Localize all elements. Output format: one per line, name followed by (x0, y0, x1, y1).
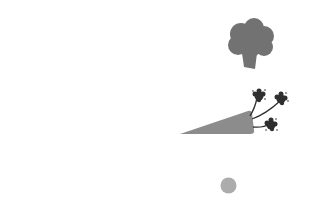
broccoli-icon[interactable] (226, 17, 276, 69)
carrot-icon[interactable] (178, 84, 294, 136)
dot-icon[interactable] (220, 177, 237, 194)
scene-canvas (0, 0, 309, 220)
